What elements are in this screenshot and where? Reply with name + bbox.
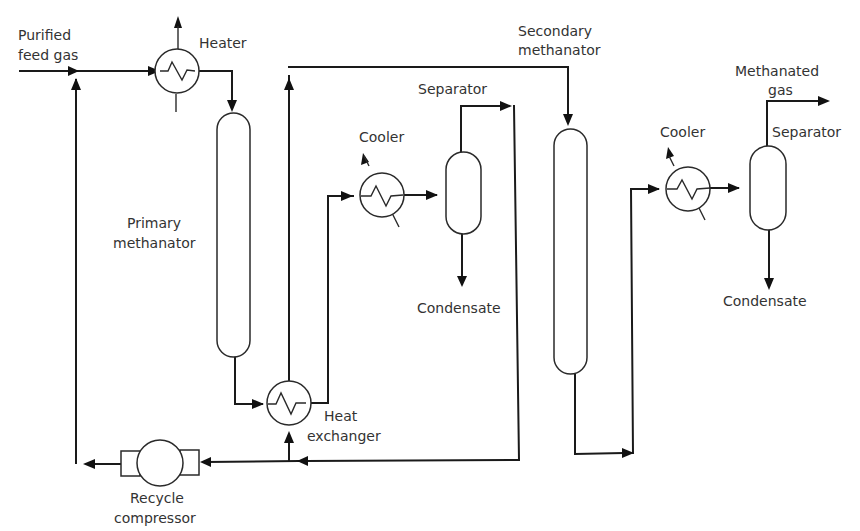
recycle-compressor xyxy=(121,440,199,486)
arrow-compressor-out-icon xyxy=(83,459,95,469)
arrow-into-sep1-icon xyxy=(426,190,438,200)
heater-label: Heater xyxy=(199,35,247,51)
arrow-feed-junction-icon xyxy=(68,66,79,76)
heat-exchanger-label-2: exchanger xyxy=(307,428,381,444)
arrow-split-icon xyxy=(297,456,308,466)
cooler-2 xyxy=(666,156,710,220)
arrow-into-cooler1-icon xyxy=(341,191,353,201)
arrow-into-compressor-icon xyxy=(200,457,211,467)
heater-to-primary-line xyxy=(198,71,232,108)
arrow-product-icon xyxy=(818,96,830,106)
arrow-sep1-overhead-icon xyxy=(500,101,512,111)
process-flow-diagram: Purified feed gas Heater Primary methana… xyxy=(0,0,860,531)
arrow-condensate1-icon xyxy=(457,276,467,287)
product-label: Methanated xyxy=(735,63,819,79)
condensate2-label: Condensate xyxy=(723,293,807,309)
separator1-label: Separator xyxy=(418,81,487,97)
separator-1-vessel xyxy=(446,152,481,234)
condensate1-label: Condensate xyxy=(417,300,501,316)
hx-to-cooler1-line xyxy=(305,196,353,403)
cooler1-label: Cooler xyxy=(359,129,404,145)
secondary-methanator-vessel xyxy=(554,129,587,374)
compressor-label-2: compressor xyxy=(114,510,196,526)
feed-label: Purified xyxy=(18,27,71,43)
secondary-methanator-label-2: methanator xyxy=(518,42,601,58)
arrow-into-cooler2-icon xyxy=(648,184,660,194)
heat-exchanger xyxy=(267,381,311,425)
primary-to-hx-line xyxy=(235,356,262,404)
arrow-hx-riser-icon xyxy=(284,78,294,90)
compressor-body-icon xyxy=(137,440,183,486)
cooler2-vent-line xyxy=(669,156,674,166)
arrow-recycle-up-icon xyxy=(71,78,81,90)
secondary-methanator-label: Secondary xyxy=(518,23,592,39)
arrow-condensate2-icon xyxy=(764,278,774,290)
heat-exchanger-label: Heat xyxy=(324,408,358,424)
arrow-into-primary-icon xyxy=(227,100,237,112)
arrow-into-hx-bottom-icon xyxy=(284,431,294,443)
feed-label-2: feed gas xyxy=(18,47,78,63)
compressor-label: Recycle xyxy=(130,490,184,506)
product-label-2: gas xyxy=(768,82,793,98)
primary-methanator-label-2: methanator xyxy=(113,235,196,251)
cooler-1 xyxy=(360,156,404,227)
cooler2-label: Cooler xyxy=(660,124,705,140)
separator2-label: Separator xyxy=(772,124,841,140)
cooler1-inlet-line xyxy=(392,213,399,227)
separator-2-vessel xyxy=(750,146,786,230)
to-compressor-line xyxy=(207,461,298,462)
to-cooler2-line xyxy=(631,189,658,453)
sep1-overhead-line xyxy=(461,106,505,152)
heater xyxy=(155,26,199,112)
arrow-into-secondary-icon xyxy=(563,114,573,126)
primary-methanator-label: Primary xyxy=(127,215,181,231)
secondary-out-line xyxy=(575,375,623,454)
arrow-into-sep2-icon xyxy=(728,183,740,193)
arrow-into-hx-icon xyxy=(252,399,264,409)
primary-methanator-vessel xyxy=(217,113,250,357)
